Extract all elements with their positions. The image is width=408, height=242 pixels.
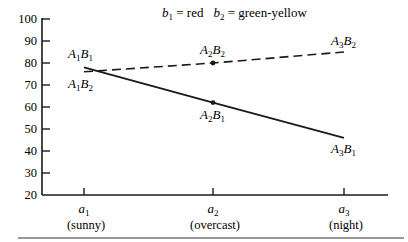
point-a2b2: [211, 61, 216, 66]
label-a1b2: A1B2: [67, 76, 93, 93]
point-a2b1: [211, 100, 216, 105]
x-ticks: [84, 188, 344, 195]
svg-text:a1: a1: [79, 201, 90, 218]
svg-text:50: 50: [25, 122, 38, 136]
svg-text:100: 100: [18, 12, 37, 26]
label-a2b1: A2B1: [199, 107, 225, 124]
svg-text:a2: a2: [208, 201, 219, 218]
label-a3b1: A3B1: [330, 141, 356, 158]
svg-text:(overcast): (overcast): [190, 218, 240, 232]
label-a3b2: A3B2: [330, 33, 356, 50]
svg-text:70: 70: [25, 78, 38, 92]
x-category-labels: a1 (sunny) a2 (overcast) a3 (night): [67, 201, 363, 232]
label-a1b1: A1B1: [67, 46, 93, 63]
label-a2b2: A2B2: [199, 42, 225, 59]
svg-text:20: 20: [25, 188, 38, 202]
y-ticks: [42, 19, 50, 173]
svg-text:90: 90: [25, 34, 38, 48]
svg-text:a3: a3: [339, 201, 351, 218]
y-tick-labels: 100 90 80 70 60 50 40 30 20: [18, 12, 37, 202]
svg-text:(night): (night): [329, 218, 363, 232]
svg-text:(sunny): (sunny): [67, 218, 105, 232]
svg-text:60: 60: [25, 100, 38, 114]
svg-text:40: 40: [25, 144, 38, 158]
svg-text:30: 30: [25, 166, 38, 180]
legend: b1 = redb2 = green-yellow: [162, 5, 307, 22]
svg-text:80: 80: [25, 56, 38, 70]
interaction-chart: 100 90 80 70 60 50 40 30 20 a1 (sunny) a…: [0, 0, 408, 242]
